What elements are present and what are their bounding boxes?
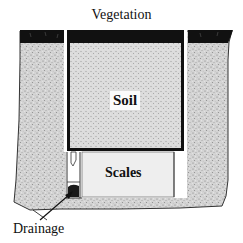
lysimeter-diagram: Vegetation Soil Scales Drainage <box>0 0 243 243</box>
vegetation-label: Vegetation <box>0 8 243 22</box>
left-wall-gap <box>64 30 67 152</box>
soil-label: Soil <box>110 91 140 110</box>
scales-label: Scales <box>105 166 142 180</box>
drainage-label: Drainage <box>13 222 64 236</box>
